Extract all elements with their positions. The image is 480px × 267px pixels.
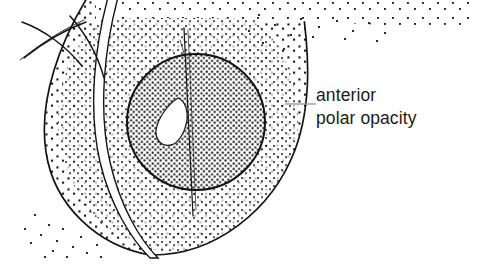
anterior-polar-opacity-figure: anterior polar opacity: [0, 0, 480, 267]
annotation-label-line2: polar opacity: [316, 108, 417, 128]
annotation-label-line1: anterior: [316, 85, 376, 105]
